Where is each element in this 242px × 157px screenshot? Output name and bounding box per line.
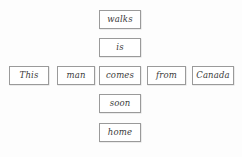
word-label: comes — [106, 71, 134, 80]
word-box-from[interactable]: from — [147, 66, 186, 85]
word-box-canada[interactable]: Canada — [192, 66, 234, 85]
word-label: is — [116, 43, 123, 52]
word-box-is[interactable]: is — [99, 38, 141, 57]
word-label: Canada — [196, 71, 230, 80]
word-box-home[interactable]: home — [99, 123, 141, 142]
word-label: home — [108, 128, 132, 137]
word-label: from — [156, 71, 177, 80]
word-box-this[interactable]: This — [9, 66, 49, 85]
word-box-comes[interactable]: comes — [99, 66, 141, 85]
word-label: walks — [107, 15, 132, 24]
word-label: man — [66, 71, 85, 80]
word-box-soon[interactable]: soon — [99, 94, 141, 113]
word-slot-diagram: walks is This man comes from Canada soon… — [0, 0, 242, 157]
word-label: This — [20, 71, 39, 80]
word-label: soon — [110, 99, 131, 108]
word-box-man[interactable]: man — [57, 66, 95, 85]
word-box-walks[interactable]: walks — [99, 10, 141, 29]
